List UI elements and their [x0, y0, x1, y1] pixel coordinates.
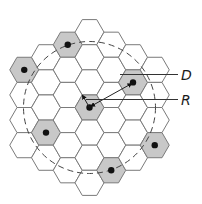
cell-radius-label: R [181, 92, 191, 108]
base-station-dot [152, 142, 158, 148]
base-station-dot [108, 167, 114, 173]
base-station-dot [43, 129, 49, 135]
base-station-dot [21, 67, 27, 73]
cell-reuse-diagram: D R [0, 0, 202, 204]
base-station-dot [65, 42, 71, 48]
reuse-distance-label: D [181, 67, 192, 83]
